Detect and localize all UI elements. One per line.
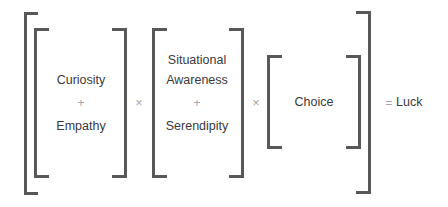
serendipity-term: Serendipity	[166, 120, 229, 133]
situational-awareness-line1: Situational	[168, 54, 226, 67]
situational-awareness-line2: Awareness	[166, 74, 228, 87]
luck-equation-diagram: Curiosity + Empathy × Situational Awaren…	[0, 0, 448, 207]
luck-result: Luck	[396, 96, 422, 109]
choice-term: Choice	[295, 96, 334, 109]
group2-right-bracket	[229, 28, 244, 178]
empathy-term: Empathy	[56, 120, 105, 133]
group3-right-bracket	[346, 55, 361, 149]
group1-left-bracket	[34, 28, 49, 178]
multiply-operator-2: ×	[252, 97, 259, 109]
group1-right-bracket	[112, 28, 127, 178]
multiply-operator-1: ×	[135, 97, 142, 109]
group3-left-bracket	[267, 55, 282, 149]
group2-left-bracket	[152, 28, 167, 178]
equals-operator: =	[385, 97, 392, 109]
plus-operator-1: +	[77, 97, 84, 109]
curiosity-term: Curiosity	[57, 74, 106, 87]
plus-operator-2: +	[193, 97, 200, 109]
